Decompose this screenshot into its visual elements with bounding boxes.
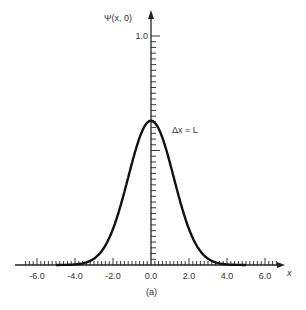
- x-tick-label: 2.0: [183, 271, 196, 281]
- axes: [15, 10, 285, 268]
- x-tick-label: 4.0: [221, 271, 234, 281]
- x-axis-label: x: [286, 268, 292, 278]
- y-axis-label: Ψ(x, 0): [104, 13, 132, 23]
- x-axis-arrow-icon: [277, 262, 285, 268]
- y-axis-ticks: 1.0: [135, 31, 160, 259]
- x-tick-label: -2.0: [105, 271, 121, 281]
- y-tick-label: 1.0: [135, 31, 148, 41]
- y-axis-arrow-icon: [148, 10, 154, 19]
- gaussian-wavepacket-chart: -6.0-4.0-2.00.02.04.06.0 1.0 Ψ(x, 0) x Δ…: [0, 0, 306, 310]
- x-tick-label: -6.0: [29, 271, 45, 281]
- x-tick-label: 6.0: [259, 271, 272, 281]
- x-tick-label: 0.0: [145, 271, 158, 281]
- panel-label: (a): [146, 287, 157, 297]
- x-tick-label: -4.0: [67, 271, 83, 281]
- width-annotation: Δx = L: [172, 125, 198, 135]
